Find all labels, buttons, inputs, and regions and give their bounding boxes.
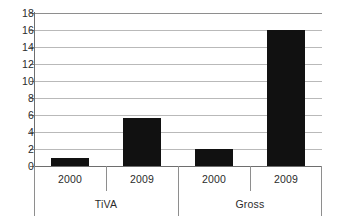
group-label-gross: Gross	[178, 191, 322, 216]
year-label-1: 2009	[106, 166, 178, 191]
label-sep-3	[250, 166, 251, 191]
year-label-3: 2009	[250, 166, 322, 191]
label-sep-right	[321, 166, 322, 216]
year-label-2: 2000	[178, 166, 250, 191]
year-label-0: 2000	[34, 166, 106, 191]
label-sep-left	[34, 166, 35, 216]
bar-gross-2000	[195, 149, 233, 166]
group-label-tiva: TiVA	[34, 191, 178, 216]
bar-chart-figure: 181614121086420 2000200920002009 TiVAGro…	[0, 0, 350, 220]
bar-tiva-2000	[51, 158, 89, 167]
bars-layer	[0, 0, 350, 170]
category-label-table: 2000200920002009 TiVAGross	[34, 166, 322, 216]
plot-area: 181614121086420	[0, 0, 350, 170]
bar-gross-2009	[267, 30, 305, 166]
label-sep-2	[178, 166, 179, 216]
bar-tiva-2009	[123, 118, 161, 166]
label-sep-1	[106, 166, 107, 191]
